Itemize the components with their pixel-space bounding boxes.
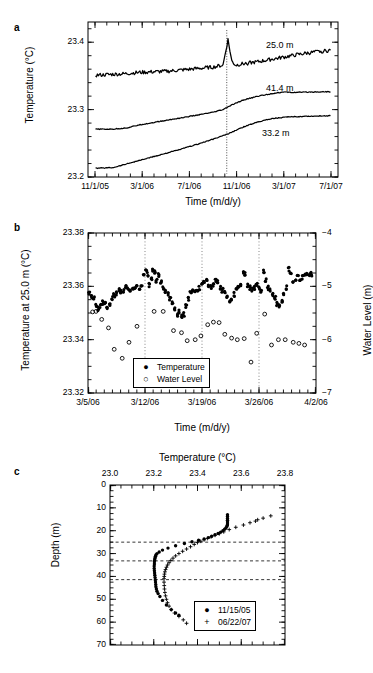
axis-tick-label: 10 bbox=[97, 502, 106, 512]
axis-tick-label: 11/1/05 bbox=[81, 181, 109, 191]
series-label-depth: 41.4 m bbox=[266, 83, 294, 93]
axis-tick-label: 3/1/06 bbox=[130, 181, 154, 191]
plus-icon: + bbox=[199, 617, 215, 627]
panel-c-legend: ● 11/15/05 + 06/22/07 bbox=[194, 601, 256, 631]
axis-tick-label: 7/1/07 bbox=[319, 181, 343, 191]
panel-a-xlabel: Time (m/d/y) bbox=[88, 196, 338, 207]
filled-circle-icon: ● bbox=[138, 362, 154, 372]
axis-tick-label: 3/12/06 bbox=[131, 397, 159, 407]
axis-tick-label: 4/2/06 bbox=[304, 397, 328, 407]
axis-tick-label: 70 bbox=[97, 639, 106, 649]
axis-tick-label: 60 bbox=[97, 616, 106, 626]
panel-b-xlabel: Time (m/d/y) bbox=[88, 422, 316, 433]
series-label-depth: 33.2 m bbox=[262, 128, 290, 138]
axis-tick-label: −5 bbox=[322, 280, 332, 290]
panel-b-ylabel-right: Water Level (m) bbox=[362, 245, 373, 395]
panel-c-xlabel: Temperature (°C) bbox=[105, 452, 290, 463]
axis-tick-label: 23.8 bbox=[277, 468, 294, 478]
legend-label-profile-2: 06/22/07 bbox=[215, 617, 251, 627]
panel-b-legend: ● Temperature ○ Water Level bbox=[133, 358, 210, 388]
axis-tick-label: 23.38 bbox=[63, 227, 84, 237]
axis-tick-label: −7 bbox=[322, 387, 332, 397]
axis-tick-label: 23.34 bbox=[63, 334, 84, 344]
legend-item-temperature: ● Temperature bbox=[138, 361, 205, 373]
panel-a-plot bbox=[88, 22, 338, 177]
axis-tick-label: 23.4 bbox=[189, 468, 206, 478]
panel-a-label: a bbox=[14, 22, 20, 33]
filled-circle-icon: ● bbox=[199, 605, 215, 615]
axis-tick-label: 3/26/06 bbox=[245, 397, 273, 407]
legend-item-profile-1: ● 11/15/05 bbox=[199, 604, 251, 616]
legend-label-profile-1: 11/15/05 bbox=[215, 605, 250, 615]
legend-item-profile-2: + 06/22/07 bbox=[199, 616, 251, 628]
axis-tick-label: 20 bbox=[97, 525, 106, 535]
axis-tick-label: 11/1/06 bbox=[223, 181, 251, 191]
open-circle-icon: ○ bbox=[138, 374, 154, 384]
axis-tick-label: 50 bbox=[97, 593, 106, 603]
axis-tick-label: 0 bbox=[101, 479, 106, 489]
axis-tick-label: 23.0 bbox=[102, 468, 119, 478]
axis-tick-label: 7/1/06 bbox=[178, 181, 202, 191]
axis-tick-label: 3/1/07 bbox=[272, 181, 296, 191]
axis-tick-label: 23.3 bbox=[67, 104, 84, 114]
legend-item-water-level: ○ Water Level bbox=[138, 373, 205, 385]
panel-c-ylabel: Depth (m) bbox=[50, 490, 61, 600]
axis-tick-label: 23.6 bbox=[233, 468, 250, 478]
panel-c-label: c bbox=[14, 466, 20, 477]
legend-label-temperature: Temperature bbox=[154, 362, 205, 372]
axis-tick-label: 23.32 bbox=[63, 387, 84, 397]
legend-label-water-level: Water Level bbox=[154, 374, 202, 384]
panel-a-ylabel: Temperature (°C) bbox=[24, 10, 35, 160]
axis-tick-label: 30 bbox=[97, 548, 106, 558]
axis-tick-label: 23.2 bbox=[67, 171, 84, 181]
series-label-depth: 25.0 m bbox=[266, 40, 294, 50]
axis-tick-label: 3/5/06 bbox=[76, 397, 100, 407]
axis-tick-label: 23.36 bbox=[63, 280, 84, 290]
axis-tick-label: 3/19/06 bbox=[188, 397, 216, 407]
axis-tick-label: 23.4 bbox=[67, 36, 84, 46]
panel-b-ylabel-left: Temperature at 25.0 m (°C) bbox=[20, 220, 31, 400]
axis-tick-label: −4 bbox=[322, 227, 332, 237]
axis-tick-label: 23.2 bbox=[145, 468, 162, 478]
axis-tick-label: −6 bbox=[322, 334, 332, 344]
axis-tick-label: 40 bbox=[97, 570, 106, 580]
